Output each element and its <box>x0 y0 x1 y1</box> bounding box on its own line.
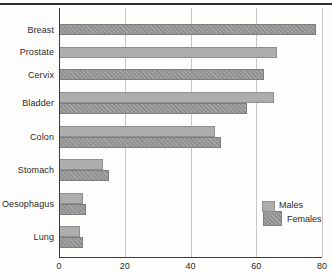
category-label-oesophagus: Oesophagus <box>2 199 54 209</box>
legend-males-label: Males <box>279 200 303 210</box>
category-label-lung: Lung <box>34 232 54 242</box>
bar-oesophagus-males <box>60 193 83 204</box>
x-axis-labels: 020406080 <box>59 261 322 275</box>
x-tick-label-0: 0 <box>56 261 61 271</box>
bar-stomach-males <box>60 159 103 170</box>
x-tick-label-40: 40 <box>185 261 195 271</box>
gridline-60 <box>256 8 257 257</box>
x-tick-label-60: 60 <box>251 261 261 271</box>
category-label-stomach: Stomach <box>18 165 54 175</box>
legend-females-label: Females <box>287 214 322 224</box>
bar-chart-figure: BreastProstateCervixBladderColonStomachO… <box>0 0 332 278</box>
bar-cervix-females <box>60 69 264 80</box>
top-rule-divider <box>0 3 332 5</box>
category-label-prostate: Prostate <box>20 47 54 57</box>
category-label-breast: Breast <box>27 25 54 35</box>
category-label-colon: Colon <box>30 132 54 142</box>
bar-bladder-males <box>60 92 274 103</box>
x-tick-label-20: 20 <box>120 261 130 271</box>
bar-breast-females <box>60 24 316 35</box>
bar-oesophagus-females <box>60 204 86 215</box>
category-label-bladder: Bladder <box>22 98 54 108</box>
category-label-cervix: Cervix <box>28 70 54 80</box>
bar-colon-males <box>60 126 215 137</box>
legend: Males Females <box>260 200 330 230</box>
legend-males-swatch <box>262 201 275 212</box>
bar-lung-males <box>60 226 80 237</box>
bar-colon-females <box>60 137 221 148</box>
bar-bladder-females <box>60 103 247 114</box>
legend-females-swatch <box>263 211 282 226</box>
bar-stomach-females <box>60 170 109 181</box>
bar-prostate-males <box>60 47 277 58</box>
x-tick-label-80: 80 <box>317 261 327 271</box>
bar-lung-females <box>60 237 83 248</box>
